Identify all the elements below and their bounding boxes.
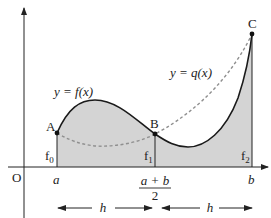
label-b: B [150, 116, 159, 131]
label-f0: f0 [45, 148, 54, 165]
label-c: C [248, 16, 257, 31]
point-b [153, 132, 158, 137]
label-curve-f: y = f(x) [52, 84, 93, 99]
simpson-diagram: A B C f0 f1 f2 y = f(x) y = q(x) O a a +… [0, 0, 271, 218]
label-a: A [46, 119, 56, 134]
tick-mid-denominator: 2 [152, 188, 159, 203]
interval-label-1: h [100, 200, 107, 215]
tick-mid-numerator: a + b [141, 173, 170, 188]
point-c [250, 32, 255, 37]
tick-a: a [53, 172, 60, 187]
origin-label: O [12, 170, 21, 185]
interval-label-2: h [207, 200, 214, 215]
label-curve-q: y = q(x) [168, 65, 212, 80]
tick-b: b [248, 172, 255, 187]
